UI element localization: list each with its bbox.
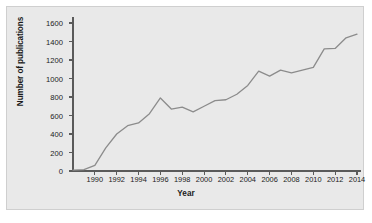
series-group [73, 34, 357, 170]
x-axis-tick-labels: 1990199219941996199820002002200420062008… [7, 175, 365, 189]
data-line-0 [73, 34, 357, 170]
x-tick-label: 2014 [340, 175, 372, 184]
line-chart: Number of publications 02004006008001000… [7, 7, 363, 209]
axes-group [69, 17, 361, 175]
x-axis-title: Year [7, 189, 365, 198]
figure-panel: Number of publications 02004006008001000… [6, 6, 364, 210]
